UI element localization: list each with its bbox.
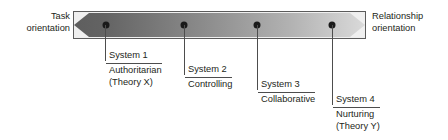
spectrum-bar: [73, 11, 366, 39]
system-1-theory: (Theory X): [106, 77, 162, 89]
label-group-system-1: System 1 Authoritarian (Theory X): [106, 50, 162, 88]
label-group-system-2: System 2 Controlling: [185, 64, 232, 91]
spectrum-arrow-shape: [74, 12, 365, 38]
leadership-systems-spectrum-diagram: Task orientation Relationship orientatio…: [0, 0, 448, 140]
task-orientation-line1: Task: [51, 11, 70, 21]
system-4-name: System 4: [333, 94, 380, 108]
label-group-system-3: System 3 Collaborative: [258, 79, 315, 106]
task-orientation-label: Task orientation: [0, 11, 70, 34]
leader-line-system-4: [332, 25, 333, 105]
system-2-name: System 2: [185, 64, 232, 78]
system-4-description: Nurturing: [333, 108, 380, 121]
relationship-orientation-label: Relationship orientation: [372, 11, 448, 34]
relationship-orientation-line2: orientation: [372, 23, 415, 33]
system-3-name: System 3: [258, 79, 315, 93]
system-1-name: System 1: [106, 50, 162, 64]
system-4-theory: (Theory Y): [333, 121, 380, 133]
relationship-orientation-line1: Relationship: [372, 11, 423, 21]
system-2-description: Controlling: [185, 78, 232, 91]
system-3-description: Collaborative: [258, 93, 315, 106]
task-orientation-line2: orientation: [27, 23, 70, 33]
label-group-system-4: System 4 Nurturing (Theory Y): [333, 94, 380, 132]
system-1-description: Authoritarian: [106, 64, 162, 77]
